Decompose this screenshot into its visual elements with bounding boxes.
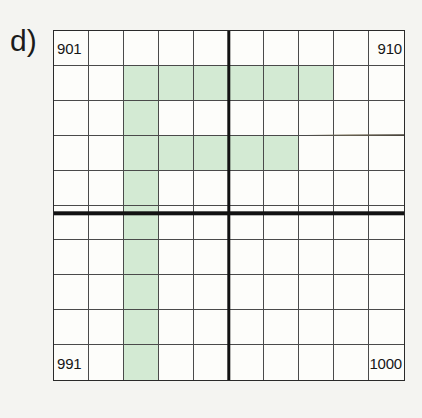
grid-cell-961[interactable] bbox=[54, 240, 89, 275]
grid-cell-955[interactable] bbox=[194, 206, 229, 241]
grid-cell-920[interactable] bbox=[369, 66, 404, 101]
grid-cell-991[interactable]: 991 bbox=[54, 345, 89, 380]
grid-cell-953[interactable] bbox=[124, 206, 159, 241]
grid-cell-919[interactable] bbox=[334, 66, 369, 101]
grid-cell-984[interactable] bbox=[159, 310, 194, 345]
grid-cell-963[interactable] bbox=[124, 240, 159, 275]
grid-cell-950[interactable] bbox=[369, 171, 404, 206]
grid-cell-997[interactable] bbox=[264, 345, 299, 380]
grid-cell-908[interactable] bbox=[299, 31, 334, 66]
grid-cell-933[interactable] bbox=[124, 136, 159, 171]
grid-cell-965[interactable] bbox=[194, 240, 229, 275]
grid-cell-903[interactable] bbox=[124, 31, 159, 66]
grid-cell-910[interactable]: 910 bbox=[369, 31, 404, 66]
grid-cell-971[interactable] bbox=[54, 275, 89, 310]
grid-cell-966[interactable] bbox=[229, 240, 264, 275]
grid-cell-972[interactable] bbox=[89, 275, 124, 310]
grid-cell-940[interactable] bbox=[369, 136, 404, 171]
grid-cell-979[interactable] bbox=[334, 275, 369, 310]
grid-cell-954[interactable] bbox=[159, 206, 194, 241]
grid-cell-982[interactable] bbox=[89, 310, 124, 345]
grid-cell-916[interactable] bbox=[229, 66, 264, 101]
grid-cell-970[interactable] bbox=[369, 240, 404, 275]
grid-cell-990[interactable] bbox=[369, 310, 404, 345]
grid-cell-906[interactable] bbox=[229, 31, 264, 66]
grid-cell-911[interactable] bbox=[54, 66, 89, 101]
grid-cell-902[interactable] bbox=[89, 31, 124, 66]
grid-cell-938[interactable] bbox=[299, 136, 334, 171]
grid-cell-962[interactable] bbox=[89, 240, 124, 275]
grid-cell-909[interactable] bbox=[334, 31, 369, 66]
grid-cell-996[interactable] bbox=[229, 345, 264, 380]
grid-cell-930[interactable] bbox=[369, 101, 404, 136]
grid-cell-951[interactable] bbox=[54, 206, 89, 241]
grid-cell-907[interactable] bbox=[264, 31, 299, 66]
grid-cell-977[interactable] bbox=[264, 275, 299, 310]
grid-cell-983[interactable] bbox=[124, 310, 159, 345]
grid-cell-923[interactable] bbox=[124, 101, 159, 136]
grid-cell-922[interactable] bbox=[89, 101, 124, 136]
grid-cell-952[interactable] bbox=[89, 206, 124, 241]
grid-cell-987[interactable] bbox=[264, 310, 299, 345]
grid-cell-1000[interactable]: 1000 bbox=[369, 345, 404, 380]
grid-cell-986[interactable] bbox=[229, 310, 264, 345]
grid-cell-921[interactable] bbox=[54, 101, 89, 136]
grid-cell-937[interactable] bbox=[264, 136, 299, 171]
grid-cell-978[interactable] bbox=[299, 275, 334, 310]
grid-cell-929[interactable] bbox=[334, 101, 369, 136]
grid-cell-943[interactable] bbox=[124, 171, 159, 206]
grid-cell-988[interactable] bbox=[299, 310, 334, 345]
grid-cell-985[interactable] bbox=[194, 310, 229, 345]
grid-cell-918[interactable] bbox=[299, 66, 334, 101]
grid-cell-973[interactable] bbox=[124, 275, 159, 310]
grid-cell-927[interactable] bbox=[264, 101, 299, 136]
grid-cell-935[interactable] bbox=[194, 136, 229, 171]
grid-cell-947[interactable] bbox=[264, 171, 299, 206]
grid-cell-958[interactable] bbox=[299, 206, 334, 241]
grid-cell-959[interactable] bbox=[334, 206, 369, 241]
grid-cell-974[interactable] bbox=[159, 275, 194, 310]
grid-cell-949[interactable] bbox=[334, 171, 369, 206]
grid-cell-936[interactable] bbox=[229, 136, 264, 171]
grid-cell-905[interactable] bbox=[194, 31, 229, 66]
grid-cell-904[interactable] bbox=[159, 31, 194, 66]
grid-cell-968[interactable] bbox=[299, 240, 334, 275]
grid-cell-957[interactable] bbox=[264, 206, 299, 241]
grid-cell-993[interactable] bbox=[124, 345, 159, 380]
grid-cell-969[interactable] bbox=[334, 240, 369, 275]
grid-cell-999[interactable] bbox=[334, 345, 369, 380]
grid-cell-995[interactable] bbox=[194, 345, 229, 380]
grid-cell-946[interactable] bbox=[229, 171, 264, 206]
grid-cell-994[interactable] bbox=[159, 345, 194, 380]
grid-cell-925[interactable] bbox=[194, 101, 229, 136]
grid-cell-980[interactable] bbox=[369, 275, 404, 310]
grid-cell-939[interactable] bbox=[334, 136, 369, 171]
grid-cell-941[interactable] bbox=[54, 171, 89, 206]
grid-cell-931[interactable] bbox=[54, 136, 89, 171]
grid-cell-981[interactable] bbox=[54, 310, 89, 345]
grid-cell-917[interactable] bbox=[264, 66, 299, 101]
grid-cell-945[interactable] bbox=[194, 171, 229, 206]
grid-cell-924[interactable] bbox=[159, 101, 194, 136]
grid-cell-948[interactable] bbox=[299, 171, 334, 206]
grid-cell-942[interactable] bbox=[89, 171, 124, 206]
grid-cell-912[interactable] bbox=[89, 66, 124, 101]
grid-cell-960[interactable] bbox=[369, 206, 404, 241]
grid-cell-934[interactable] bbox=[159, 136, 194, 171]
grid-cell-915[interactable] bbox=[194, 66, 229, 101]
grid-cell-967[interactable] bbox=[264, 240, 299, 275]
grid-cell-989[interactable] bbox=[334, 310, 369, 345]
grid-cell-998[interactable] bbox=[299, 345, 334, 380]
grid-cell-932[interactable] bbox=[89, 136, 124, 171]
grid-cell-992[interactable] bbox=[89, 345, 124, 380]
grid-cell-926[interactable] bbox=[229, 101, 264, 136]
grid-cell-901[interactable]: 901 bbox=[54, 31, 89, 66]
grid-cell-975[interactable] bbox=[194, 275, 229, 310]
grid-cell-913[interactable] bbox=[124, 66, 159, 101]
grid-cell-914[interactable] bbox=[159, 66, 194, 101]
grid-cell-928[interactable] bbox=[299, 101, 334, 136]
grid-cell-976[interactable] bbox=[229, 275, 264, 310]
grid-cell-956[interactable] bbox=[229, 206, 264, 241]
grid-cell-964[interactable] bbox=[159, 240, 194, 275]
grid-cell-944[interactable] bbox=[159, 171, 194, 206]
